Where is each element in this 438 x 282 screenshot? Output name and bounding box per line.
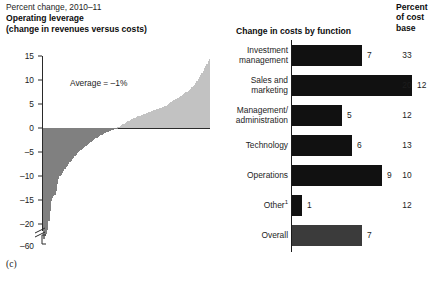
average-annotation: Average = –1% [70,78,127,88]
cost-function-label-line2: administration [168,115,288,125]
percent-of-cost-base-value: 20 [396,81,418,90]
cost-function-value-label: 7 [367,51,372,60]
cost-function-label: Sales andmarketing [168,75,288,95]
cost-function-value-label: 5 [347,111,352,120]
cost-function-label-line1: Other1 [168,200,288,210]
left-panel-title-line1: Operating leverage [6,13,224,24]
cost-function-bar [292,75,412,96]
cost-function-label-line2: marketing [168,85,288,95]
cost-function-value-label: 12 [417,81,426,90]
cost-function-bar [292,45,362,66]
y-axis-tick-label: 0 [29,124,34,133]
footer-cropped-note [300,272,438,282]
cost-function-label-line1: Management/ [168,105,288,115]
panel-letter-label: (c) [6,258,17,269]
cost-function-value-label: 6 [357,141,362,150]
footnote-marker: 1 [285,200,288,206]
y-axis-tick-label: 5 [29,100,34,109]
axis-break-icon [33,224,55,246]
cost-function-value-label: 1 [307,201,312,210]
cost-function-label: Technology [168,140,288,150]
cost-function-label: Other1 [168,200,288,210]
cost-function-bar [292,135,352,156]
y-axis-tick-mark [38,56,42,57]
cost-function-bar [292,105,342,126]
y-axis-tick-label: –20 [20,220,34,229]
percent-of-cost-base-value: 10 [396,171,418,180]
y-axis-tick-mark [38,80,42,81]
left-panel-super-label: Percent change, 2010–11 [6,2,224,13]
percent-of-cost-base-value: 13 [396,141,418,150]
cost-function-label: Operations [168,170,288,180]
cost-function-label-line1: Operations [168,170,288,180]
left-panel-title-line2: (change in revenues versus costs) [6,24,224,35]
y-axis-tick-mark [38,152,42,153]
cost-function-label-line1: Sales and [168,75,288,85]
change-in-costs-by-function-chart: Investmentmanagement733Sales andmarketin… [236,40,438,252]
y-axis-tick-mark [38,128,42,129]
y-axis-tick-label: –5 [25,148,34,157]
left-panel-header: Percent change, 2010–11 Operating levera… [6,2,224,35]
y-axis-tick-label: 15 [25,52,34,61]
cost-function-bar [292,195,302,216]
pct-header-line3: base [396,23,428,33]
cost-function-bar [292,165,382,186]
y-axis-tick-mark [38,104,42,105]
cost-function-value-label: 9 [387,171,392,180]
cost-function-value-label: 7 [367,231,372,240]
cost-function-label-line1: Overall [168,230,288,240]
y-axis-tick-label: –60 [20,242,34,251]
y-axis-tick-label: –10 [20,172,34,181]
percent-of-cost-base-header: Percent of cost base [396,2,428,33]
y-axis-tick-label: –15 [20,196,34,205]
percent-of-cost-base-value: 12 [396,201,418,210]
percent-of-cost-base-value: 33 [396,51,418,60]
cost-function-label-line1: Technology [168,140,288,150]
cost-function-label-line1: Investment [168,45,288,55]
cost-function-label-line2: management [168,55,288,65]
cost-function-label: Management/administration [168,105,288,125]
y-axis-tick-label: 10 [25,76,34,85]
distribution-bar [116,128,118,129]
cost-function-label: Investmentmanagement [168,45,288,65]
cost-function-label: Overall [168,230,288,240]
cost-function-bar [292,225,362,246]
percent-of-cost-base-value: 12 [396,111,418,120]
pct-header-line2: of cost [396,12,428,22]
pct-header-line1: Percent [396,2,428,12]
y-axis-tick-mark [38,176,42,177]
right-panel-title: Change in costs by function [236,26,351,36]
y-axis-tick-mark [38,200,42,201]
y-axis-tick-mark [38,224,42,225]
